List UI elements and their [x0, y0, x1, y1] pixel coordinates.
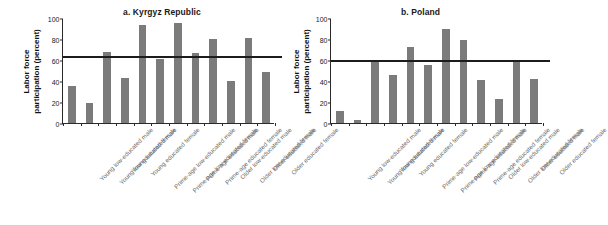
y-axis-tick-mark [328, 103, 331, 104]
x-axis-tick-mark [257, 123, 258, 126]
bar [513, 60, 520, 123]
y-axis-tick-mark [60, 40, 63, 41]
reference-line-national-average [331, 60, 550, 62]
x-axis-tick-mark [169, 123, 170, 126]
panel-title-a: a. Kyrgyz Republic [0, 7, 282, 17]
x-axis-tick-mark [384, 123, 385, 126]
reference-line-national-average [63, 56, 282, 58]
x-axis-tick-mark [63, 123, 64, 126]
bar [442, 29, 449, 124]
x-axis-tick-mark [151, 123, 152, 126]
bar [477, 80, 484, 123]
bar [424, 65, 431, 123]
x-axis-tick-mark [240, 123, 241, 126]
x-axis-tick-mark [490, 123, 491, 126]
x-axis-tick-mark [525, 123, 526, 126]
x-axis-tick-mark [402, 123, 403, 126]
x-axis-tick-mark [508, 123, 509, 126]
y-axis-title-line1-b: Labor force [292, 19, 302, 124]
bar [139, 25, 146, 123]
x-axis-tick-mark [222, 123, 223, 126]
x-axis-tick-mark [98, 123, 99, 126]
bar [86, 103, 93, 123]
bar [262, 72, 269, 123]
y-axis-title-line2-a: participation (percent) [32, 19, 42, 124]
y-axis-title-b: Labor force participation (percent) [292, 19, 312, 124]
y-axis-tick-mark [60, 103, 63, 104]
panel-kyrgyz-republic: a. Kyrgyz Republic Labor force participa… [0, 0, 282, 225]
y-axis-title-a: Labor force participation (percent) [22, 19, 42, 124]
x-axis-tick-mark [455, 123, 456, 126]
bar [192, 53, 199, 123]
bar [407, 47, 414, 123]
bar [354, 120, 361, 123]
bar [530, 79, 537, 123]
x-axis-tick-mark [116, 123, 117, 126]
bar [336, 111, 343, 123]
bar [103, 52, 110, 123]
bar [460, 40, 467, 123]
y-axis-tick-mark [328, 40, 331, 41]
y-axis-tick-mark [328, 19, 331, 20]
plot-area-a: 020406080100 [62, 19, 274, 124]
x-axis-tick-mark [543, 123, 544, 126]
x-axis-tick-mark [349, 123, 350, 126]
panel-poland: b. Poland Labor force participation (per… [282, 0, 561, 225]
x-axis-tick-mark [437, 123, 438, 126]
bar [156, 59, 163, 123]
x-axis-tick-mark [134, 123, 135, 126]
bar [389, 75, 396, 123]
x-axis-tick-mark [204, 123, 205, 126]
bar [245, 38, 252, 123]
plot-area-b: 020406080100 [330, 19, 542, 124]
x-axis-tick-mark [472, 123, 473, 126]
y-axis-title-line1-a: Labor force [22, 19, 32, 124]
y-axis-tick-mark [60, 61, 63, 62]
y-axis-tick-mark [328, 82, 331, 83]
bar [121, 78, 128, 123]
x-axis-tick-mark [187, 123, 188, 126]
y-axis-tick-mark [60, 82, 63, 83]
bar [174, 23, 181, 123]
bar [227, 81, 234, 123]
y-axis-tick-mark [60, 19, 63, 20]
y-axis-title-line2-b: participation (percent) [302, 19, 312, 124]
x-axis-tick-mark [419, 123, 420, 126]
x-axis-tick-mark [275, 123, 276, 126]
x-axis-tick-mark [331, 123, 332, 126]
bar [68, 86, 75, 123]
bar [371, 60, 378, 123]
bar [495, 99, 502, 123]
x-axis-tick-mark [366, 123, 367, 126]
bar [209, 39, 216, 123]
x-axis-tick-mark [81, 123, 82, 126]
